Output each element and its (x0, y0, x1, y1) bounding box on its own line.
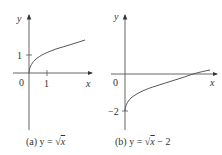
chart-b-y-tick-label: −2 (108, 106, 119, 117)
chart-b-y-label: y (113, 11, 119, 22)
chart-b-caption: (b) y = √x − 2 (115, 136, 170, 147)
chart-b-origin-label: 0 (113, 77, 118, 88)
chart-b-x-label: x (209, 77, 215, 88)
chart-a-y-tick-label: 1 (17, 50, 22, 61)
chart-b-caption-suffix: − 2 (155, 136, 171, 147)
chart-b-caption-prefix: (b) y = (115, 136, 145, 147)
chart-a-curve (29, 40, 85, 73)
chart-a-x-tick-label: 1 (44, 78, 49, 89)
chart-a-caption-expr: x (61, 136, 65, 147)
chart-a-y-label: y (16, 13, 22, 24)
chart-a-origin-label: 0 (19, 77, 24, 88)
chart-a-caption: (a) y = √x (26, 136, 65, 147)
chart-a: y x 0 1 1 (13, 13, 92, 130)
chart-b-curve (125, 70, 210, 111)
figure: y x 0 1 1 y x 0 −2 (0, 0, 222, 155)
chart-a-caption-prefix: (a) y = (26, 136, 55, 147)
chart-a-x-label: x (85, 78, 91, 89)
chart-b: y x 0 −2 (108, 11, 217, 130)
